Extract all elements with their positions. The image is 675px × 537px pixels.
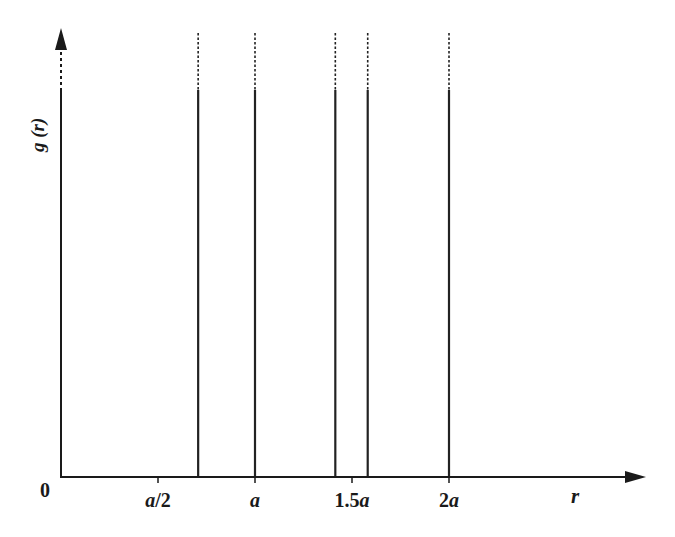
origin-label: 0	[40, 479, 50, 501]
x-tick-label: 1.5a	[335, 489, 370, 511]
chart-canvas: a/2a1.5a2a 0 r g (r)	[0, 0, 675, 537]
peak-lines	[198, 33, 449, 477]
x-ticks: a/2a1.5a2a	[145, 477, 459, 511]
x-axis-label: r	[571, 484, 580, 508]
x-tick-label: 2a	[439, 489, 459, 511]
y-axis-arrow-icon	[55, 28, 67, 50]
x-tick-label: a/2	[145, 489, 171, 511]
y-axis-label: g (r)	[27, 118, 49, 153]
x-tick-label: a	[250, 489, 260, 511]
x-axis-arrow-icon	[625, 471, 646, 483]
